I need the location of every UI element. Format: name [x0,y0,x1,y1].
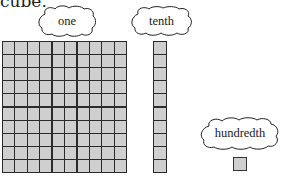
unit-cell [28,55,39,67]
cloud-label-one: one [37,5,97,37]
unit-cell [102,42,113,54]
cloud-text-tenth: tenth [130,6,193,36]
unit-cell [28,81,39,93]
unit-cell [65,55,76,67]
unit-cell [102,108,113,120]
unit-cell [53,134,64,146]
unit-cell [15,42,26,54]
unit-cell [28,94,39,106]
unit-cell [90,81,101,93]
unit-cell [3,68,14,80]
unit-cell [28,42,39,54]
unit-cell [154,42,166,54]
unit-cell [115,55,126,67]
unit-cell [40,42,51,54]
unit-cell [115,42,126,54]
unit-cell [65,147,76,159]
unit-cell [40,68,51,80]
unit-cell [15,121,26,133]
unit-cell [65,160,76,172]
unit-cell [78,55,89,67]
unit-cell [28,68,39,80]
unit-cell [78,147,89,159]
unit-cell [154,147,166,159]
unit-cell [65,94,76,106]
unit-cell [102,55,113,67]
unit-cell [53,42,64,54]
unit-cell [28,160,39,172]
unit-cell [3,121,14,133]
unit-cell [102,147,113,159]
unit-cell [115,134,126,146]
unit-cell [78,134,89,146]
unit-cell [102,134,113,146]
unit-cell [15,108,26,120]
unit-cell [3,147,14,159]
unit-cell [53,68,64,80]
cloud-label-hundredth: hundredth [200,117,280,150]
unit-cell [78,68,89,80]
hundredth-block-square [233,157,247,171]
unit-cell [90,147,101,159]
unit-cell [154,160,166,172]
unit-cell [102,94,113,106]
unit-cell [40,147,51,159]
unit-cell [154,55,166,67]
unit-cell [53,160,64,172]
unit-cell [90,108,101,120]
unit-cell [28,134,39,146]
unit-cell [28,108,39,120]
unit-cell [65,42,76,54]
unit-cell [78,121,89,133]
unit-cell [15,147,26,159]
unit-cell [53,108,64,120]
unit-cell [78,160,89,172]
unit-cell [90,134,101,146]
unit-cell [28,147,39,159]
unit-cell [40,160,51,172]
unit-cell [40,55,51,67]
unit-cell [3,55,14,67]
unit-cell [53,81,64,93]
unit-cell [102,68,113,80]
cloud-text-hundredth: hundredth [200,117,280,150]
unit-cell [154,94,166,106]
unit-cell [3,42,14,54]
unit-cell [65,134,76,146]
unit-cell [115,108,126,120]
unit-cell [15,134,26,146]
one-block-grid [2,41,127,173]
unit-cell [90,55,101,67]
unit-cell [90,121,101,133]
unit-cell [3,108,14,120]
unit-cell [78,42,89,54]
unit-cell [53,55,64,67]
cloud-text-one: one [37,5,97,37]
unit-cell [65,121,76,133]
unit-cell [90,160,101,172]
unit-cell [154,68,166,80]
unit-cell [115,81,126,93]
unit-cell [3,81,14,93]
unit-cell [15,160,26,172]
unit-cell [15,94,26,106]
unit-cell [15,55,26,67]
unit-cell [115,160,126,172]
unit-cell [15,68,26,80]
unit-cell [65,81,76,93]
unit-cell [115,121,126,133]
unit-cell [115,147,126,159]
unit-cell [78,94,89,106]
unit-cell [115,94,126,106]
unit-cell [53,121,64,133]
unit-cell [15,81,26,93]
unit-cell [154,134,166,146]
unit-cell [78,81,89,93]
unit-cell [65,68,76,80]
unit-cell [3,160,14,172]
unit-cell [102,160,113,172]
unit-cell [53,94,64,106]
unit-cell [40,108,51,120]
unit-cell [40,134,51,146]
unit-cell [90,68,101,80]
